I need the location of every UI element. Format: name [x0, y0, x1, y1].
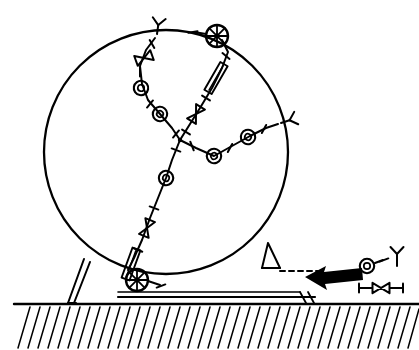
spoked-wheel-lower	[126, 269, 148, 291]
legend-bowtie-item	[359, 283, 403, 293]
right-foot	[262, 243, 280, 268]
large-circle	[44, 30, 288, 274]
diagram-svg	[0, 0, 419, 350]
hatched-ground	[14, 304, 419, 348]
chain-upper-right	[180, 25, 230, 140]
chain-right	[180, 112, 298, 165]
legend-y-fork-item	[391, 247, 404, 266]
bowtie-node	[139, 218, 155, 238]
rod-node	[204, 62, 227, 94]
legend-ring-item	[347, 258, 388, 277]
ground-hatching	[18, 307, 419, 348]
spoked-wheel-upper	[206, 25, 228, 47]
left-strut	[68, 259, 90, 303]
bowtie-node	[187, 104, 205, 124]
center-junction	[178, 138, 182, 142]
force-arrow	[305, 266, 363, 290]
figure-canvas	[0, 0, 419, 350]
base-rail	[118, 292, 315, 303]
chain-upper-left	[133, 17, 180, 140]
y-fork-terminator	[151, 17, 166, 35]
